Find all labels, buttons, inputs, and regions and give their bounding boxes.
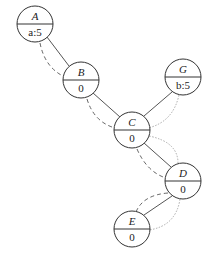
node-b-value: 0: [78, 82, 84, 94]
edge-a-b: [47, 37, 69, 66]
dotted-curve-g-c: [148, 95, 179, 128]
dotted-curve-d-e: [149, 199, 180, 230]
dashed-curve-c-d: [137, 149, 166, 178]
node-g-value: b:5: [176, 79, 191, 91]
node-a-label: A: [31, 10, 39, 22]
node-a: A a:5: [17, 6, 53, 42]
dashed-curve-a-b: [40, 43, 65, 77]
node-d: D 0: [165, 163, 201, 199]
node-d-label: D: [178, 167, 187, 179]
edge-b-c: [93, 93, 120, 117]
node-a-value: a:5: [28, 26, 42, 38]
node-g-label: G: [179, 63, 187, 75]
node-c: C 0: [114, 112, 150, 148]
node-c-value: 0: [129, 132, 135, 144]
dashed-curve-b-c: [87, 99, 115, 128]
edge-g-c: [144, 92, 172, 116]
node-e: E 0: [114, 211, 150, 247]
node-e-label: E: [128, 215, 136, 227]
node-b-label: B: [78, 66, 85, 78]
node-e-value: 0: [129, 231, 135, 243]
edge-c-d: [144, 143, 171, 167]
dotted-curve-c-d: [149, 136, 178, 163]
tree-diagram: A a:5 B 0 C 0 G b:5 D 0 E 0: [0, 0, 211, 260]
node-c-label: C: [128, 116, 136, 128]
node-b: B 0: [63, 62, 99, 98]
edge-d-e: [144, 196, 172, 215]
node-g: G b:5: [165, 59, 201, 95]
node-d-value: 0: [180, 183, 186, 195]
